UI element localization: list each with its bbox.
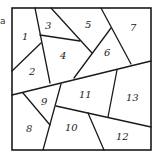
region-label-2: 2 xyxy=(28,66,35,77)
region-label-6: 6 xyxy=(104,47,111,58)
region-label-3: 3 xyxy=(45,20,51,31)
region-label-13: 13 xyxy=(126,92,139,103)
region-labels: 1 2 3 4 5 6 7 8 9 10 11 13 12 xyxy=(22,19,139,142)
region-label-9: 9 xyxy=(41,96,48,107)
edge-3-5 xyxy=(51,8,92,53)
edge-1-2 xyxy=(12,43,41,71)
edge-11-13 xyxy=(108,70,117,117)
edge-9-11-to-8-10 xyxy=(43,84,61,150)
edge-10-12 xyxy=(88,113,104,150)
region-label-8: 8 xyxy=(26,123,32,134)
region-label-12: 12 xyxy=(116,131,129,142)
region-label-7: 7 xyxy=(130,22,137,33)
region-label-1: 1 xyxy=(22,31,28,42)
region-label-5: 5 xyxy=(85,19,91,30)
region-label-10: 10 xyxy=(65,122,78,133)
edge-3-4 xyxy=(40,35,80,41)
corner-mark: a xyxy=(0,16,6,26)
region-map-diagram: a 1 2 3 4 5 6 7 8 9 10 11 13 12 xyxy=(0,0,153,156)
region-label-4: 4 xyxy=(59,50,66,61)
region-label-11: 11 xyxy=(79,89,92,100)
